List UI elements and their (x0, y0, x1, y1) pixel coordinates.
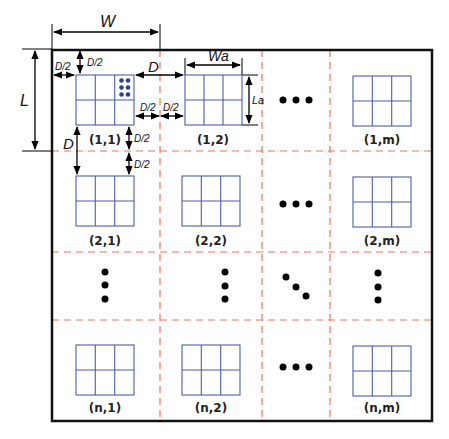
d-half-bottom-label-1: D/2 (134, 133, 150, 144)
ellipsis-vertical-col1 (102, 269, 109, 303)
cell-label-1-m: (1,m) (364, 133, 400, 147)
w-label: W (100, 13, 117, 30)
array-n-1 (76, 345, 134, 395)
ellipsis-vertical-colm (375, 270, 382, 304)
d-half-left-label: D/2 (55, 61, 71, 72)
array-2-1 (76, 176, 134, 226)
cell-label-n-m: (n,m) (364, 401, 401, 415)
array-2-2 (182, 176, 240, 226)
cell-label-n-1: (n,1) (89, 401, 121, 415)
cell-label-2-2: (2,2) (195, 234, 227, 248)
array-n-2 (182, 345, 240, 395)
array-1-1 (76, 75, 134, 125)
element-dots (119, 78, 130, 97)
array-2-m (353, 177, 411, 227)
cell-label-1-1: (1,1) (89, 133, 121, 147)
l-label: L (20, 92, 29, 109)
array-1-m (353, 76, 411, 126)
arrays (76, 75, 411, 396)
array-1-2 (185, 75, 242, 125)
d-half-top-label: D/2 (87, 57, 103, 68)
ellipsis-vertical-col2 (222, 269, 229, 303)
cell-label-2-m: (2,m) (364, 234, 400, 248)
array-n-m (353, 346, 411, 396)
d-vertical-label: D (63, 135, 74, 152)
ellipsis-horizontal-row2 (280, 201, 313, 208)
cell-label-1-2: (1,2) (197, 133, 229, 147)
ellipsis-horizontal-row1 (280, 97, 313, 104)
la-label: La (252, 94, 264, 106)
ellipsis-diagonal (283, 274, 310, 300)
d-half-right-label-1: D/2 (140, 102, 156, 113)
cell-label-2-1: (2,1) (89, 234, 121, 248)
d-half-right-label-2: D/2 (163, 102, 179, 113)
ellipsis-horizontal-rown (280, 364, 313, 371)
cell-label-n-2: (n,2) (195, 401, 227, 415)
array-layout-diagram: W L D/2 D/2 D D/2 D/2 D/2 D/2 D Wa La (0, 0, 449, 439)
d-horizontal-label: D (148, 58, 159, 75)
d-half-bottom-label-2: D/2 (134, 159, 150, 170)
wa-label: Wa (208, 48, 229, 64)
